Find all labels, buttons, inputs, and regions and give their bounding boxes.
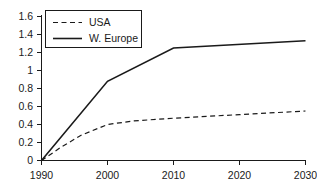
x-tick-label-0: 1990 [30,169,54,181]
legend-label-w-europe: W. Europe [89,32,138,44]
y-tick-label-1: 0.2 [18,136,33,148]
legend: USA W. Europe [46,11,142,48]
y-tick-label-0: 0 [27,154,33,166]
y-tick-label-2: 0.4 [18,118,33,130]
y-tick-label-4: 0.8 [18,82,33,94]
line-chart: 0 0.2 0.4 0.6 0.8 1 1.2 1.4 1.6 1990 200… [0,0,317,191]
x-tick-label-1: 2000 [96,169,120,181]
y-axis-tick-labels: 0 0.2 0.4 0.6 0.8 1 1.2 1.4 1.6 [18,10,33,166]
x-tick-label-4: 2030 [294,169,317,181]
y-tick-label-6: 1.2 [18,46,33,58]
y-tick-label-3: 0.6 [18,100,33,112]
x-tick-label-2: 2010 [162,169,186,181]
legend-label-usa: USA [89,16,111,28]
chart-canvas: 0 0.2 0.4 0.6 0.8 1 1.2 1.4 1.6 1990 200… [0,0,317,191]
y-tick-label-5: 1 [27,64,33,76]
x-tick-label-3: 2020 [228,169,252,181]
y-tick-label-7: 1.4 [18,28,33,40]
y-tick-label-8: 1.6 [18,10,33,22]
